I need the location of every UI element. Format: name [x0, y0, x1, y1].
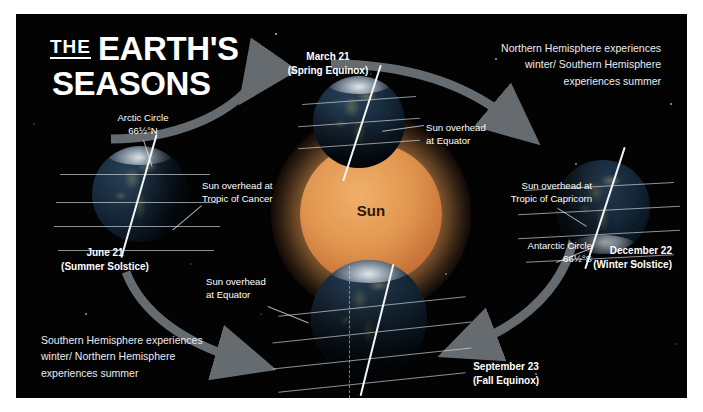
label-june-solstice: June 21 (Summer Solstice) — [30, 246, 180, 273]
title-line-2: SEASONS — [52, 67, 239, 100]
note-northern-winter: Northern Hemisphere experiences winter/ … — [501, 40, 661, 89]
note-bl-line-3: experiences summer — [41, 365, 203, 381]
equator-top-line-1: Sun overhead — [426, 122, 536, 135]
december-date: December 22 — [526, 244, 672, 258]
note-tr-line-3: experiences summer — [501, 73, 661, 89]
june-date: June 21 — [30, 246, 180, 260]
label-sun-equator-top: Sun overhead at Equator — [426, 122, 536, 148]
title-the: THE — [50, 37, 91, 59]
latitude-line-june-1 — [60, 174, 210, 175]
label-sun-equator-bottom: Sun overhead at Equator — [206, 276, 322, 302]
page-title: THEEARTH'S SEASONS — [50, 32, 239, 100]
equator-bottom-line-1: Sun overhead — [206, 276, 322, 289]
september-event: (Fall Equinox) — [436, 374, 576, 388]
note-southern-winter: Southern Hemisphere experiences winter/ … — [41, 332, 203, 381]
arctic-circle-line-1: Arctic Circle — [88, 112, 198, 125]
equator-bottom-line-2: at Equator — [206, 289, 322, 302]
march-event: (Spring Equinox) — [260, 64, 396, 78]
label-sun-tropic-capricorn: Sun overhead at Tropic of Capricorn — [456, 180, 592, 206]
earth-axis-september-dashed — [349, 266, 350, 398]
label-march-equinox: March 21 (Spring Equinox) — [260, 50, 396, 77]
equator-top-line-2: at Equator — [426, 135, 536, 148]
tropic-capricorn-line-2: Tropic of Capricorn — [456, 193, 592, 206]
march-date: March 21 — [260, 50, 396, 64]
label-arctic-circle: Arctic Circle 66½°N — [88, 112, 198, 138]
note-tr-line-2: winter/ Southern Hemisphere — [501, 56, 661, 72]
arctic-circle-line-2: 66½°N — [88, 125, 198, 138]
tropic-capricorn-line-1: Sun overhead at — [456, 180, 592, 193]
tropic-cancer-line-1: Sun overhead at — [202, 180, 322, 193]
note-bl-line-1: Southern Hemisphere experiences — [41, 332, 203, 348]
note-tr-line-1: Northern Hemisphere experiences — [501, 40, 661, 56]
label-sun-tropic-cancer: Sun overhead at Tropic of Cancer — [202, 180, 322, 206]
latitude-line-june-3 — [54, 226, 220, 227]
december-event: (Winter Solstice) — [526, 258, 672, 272]
label-september-equinox: September 23 (Fall Equinox) — [436, 360, 576, 387]
note-bl-line-2: winter/ Northern Hemisphere — [41, 348, 203, 364]
tropic-cancer-line-2: Tropic of Cancer — [202, 193, 322, 206]
infographic-poster: THEEARTH'S SEASONS Northern Hemisphere e… — [16, 14, 687, 398]
label-december-solstice: December 22 (Winter Solstice) — [526, 244, 672, 271]
september-date: September 23 — [436, 360, 576, 374]
title-line-1: EARTH'S — [98, 32, 239, 65]
june-event: (Summer Solstice) — [30, 260, 180, 274]
